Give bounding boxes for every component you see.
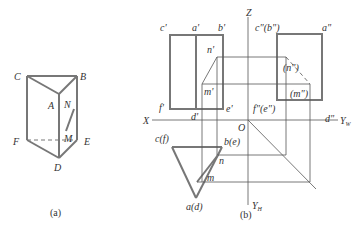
axis-Z-label: Z bbox=[246, 7, 252, 18]
label-c-f: c(f) bbox=[155, 133, 170, 145]
label-M: M bbox=[63, 133, 73, 144]
label-B: B bbox=[80, 71, 86, 82]
label-a-double-prime: a" bbox=[322, 22, 332, 33]
label-a-prime: a' bbox=[192, 22, 200, 33]
label-N: N bbox=[63, 99, 72, 110]
prism-3d-view bbox=[27, 76, 77, 158]
label-b-e: b(e) bbox=[224, 136, 241, 148]
label-d-double-prime: d" bbox=[325, 113, 335, 124]
label-n: n bbox=[219, 155, 224, 166]
label-d-prime: d' bbox=[191, 111, 199, 122]
label-c-b-double-prime: c"(b") bbox=[255, 22, 280, 34]
label-E: E bbox=[83, 136, 90, 147]
caption-a: (a) bbox=[50, 207, 61, 219]
label-e-prime: e' bbox=[226, 103, 233, 114]
top-view bbox=[172, 147, 222, 198]
label-C: C bbox=[14, 71, 21, 82]
origin-O-label: O bbox=[238, 122, 245, 133]
label-f-prime: f' bbox=[159, 102, 165, 113]
label-n-double-prime: (n") bbox=[283, 62, 300, 74]
axis-X-label: X bbox=[142, 115, 150, 126]
label-D: D bbox=[53, 162, 62, 173]
label-a-d: a(d) bbox=[186, 201, 203, 213]
projection-diagram: C B A N F M E D (a) X Z O YW YH bbox=[0, 0, 358, 235]
label-m-double-prime: (m") bbox=[290, 88, 309, 100]
axis-YW-label: YW bbox=[340, 115, 352, 127]
label-f-e-double-prime: f"(e") bbox=[253, 103, 276, 115]
label-A: A bbox=[47, 100, 55, 111]
front-view bbox=[170, 35, 223, 109]
axis-YH-label: YH bbox=[252, 200, 263, 212]
label-m: m bbox=[207, 172, 214, 183]
label-c-prime: c' bbox=[160, 22, 167, 33]
label-b-prime: b' bbox=[218, 22, 226, 33]
label-m-prime: m' bbox=[204, 86, 214, 97]
label-F: F bbox=[12, 136, 20, 147]
caption-b: (b) bbox=[240, 209, 252, 221]
label-n-prime: n' bbox=[207, 44, 215, 55]
